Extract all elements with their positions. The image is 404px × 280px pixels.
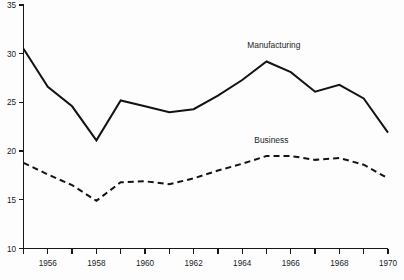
x-tick-group: 19561958196019621964196619681970: [24, 249, 398, 268]
chart-canvas: 101520253035 195619581960196219641966196…: [0, 0, 404, 280]
series-line-manufacturing: [24, 49, 389, 141]
y-tick-label: 20: [7, 147, 17, 156]
x-tick-label: 1958: [87, 259, 106, 268]
y-tick-label: 25: [7, 98, 17, 107]
x-tick-label: 1968: [330, 259, 349, 268]
x-tick-label: 1970: [379, 259, 398, 268]
line-chart-figure: 101520253035 195619581960196219641966196…: [0, 0, 404, 280]
y-tick-label: 35: [7, 1, 17, 10]
x-tick-label: 1956: [39, 259, 58, 268]
y-tick-label: 30: [7, 50, 17, 59]
x-tick-label: 1964: [233, 259, 252, 268]
y-tick-group: 101520253035: [7, 1, 24, 254]
series-group: [24, 49, 389, 201]
x-axis: 19561958196019621964196619681970: [24, 249, 398, 268]
x-tick-label: 1960: [136, 259, 155, 268]
x-tick-label: 1962: [184, 259, 203, 268]
x-tick-label: 1966: [282, 259, 301, 268]
y-tick-label: 15: [7, 196, 17, 205]
series-annotation-manufacturing: Manufacturing: [247, 40, 300, 50]
series-line-business: [24, 156, 389, 201]
y-tick-label: 10: [7, 245, 17, 254]
series-annotation-business: Business: [254, 135, 288, 145]
y-axis: 101520253035: [7, 1, 24, 254]
annotation-group: ManufacturingBusiness: [247, 40, 300, 145]
